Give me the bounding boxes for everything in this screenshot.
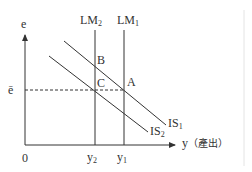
x-axis-label: y（產出）: [182, 137, 228, 149]
lm2-label: LM2: [80, 14, 102, 28]
origin-label: 0: [22, 152, 28, 164]
is2-label: IS2: [150, 125, 165, 139]
is1-curve: [64, 41, 166, 125]
point-a-label: A: [127, 76, 136, 88]
lm1-label: LM1: [117, 14, 139, 28]
is2-curve: [49, 56, 148, 132]
point-c-label: C: [97, 77, 105, 89]
is1-label: IS1: [168, 117, 183, 131]
y-axis-label: e: [21, 18, 26, 30]
y2-tick-label: y2: [87, 151, 97, 165]
y1-tick-label: y1: [117, 151, 127, 165]
e-bar-label: ē: [8, 84, 13, 96]
x-axis-note: （產出）: [188, 138, 228, 149]
point-b-label: B: [97, 54, 105, 66]
